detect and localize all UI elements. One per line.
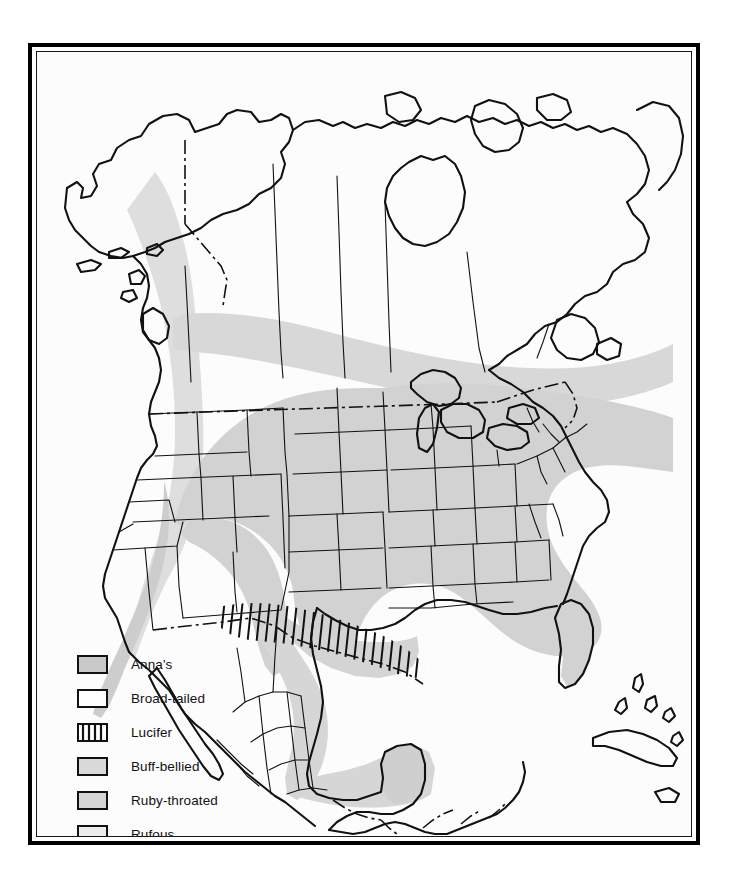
legend-item-ruby-throated[interactable]: Ruby-throated [77, 783, 307, 817]
legend-swatch-ruby-throated [77, 791, 108, 810]
legend-swatch-buff-bellied [77, 757, 108, 776]
map-legend: Anna's Broad-tailed Lucifer [77, 647, 307, 837]
legend-swatch-rufous [77, 825, 108, 838]
hatch-pattern-icon [79, 725, 106, 740]
legend-item-lucifer[interactable]: Lucifer [77, 715, 307, 749]
legend-item-broad-tailed[interactable]: Broad-tailed [77, 681, 307, 715]
legend-label-rufous: Rufous [131, 827, 174, 838]
legend-item-annas[interactable]: Anna's [77, 647, 307, 681]
range-map-figure: Anna's Broad-tailed Lucifer [0, 0, 737, 887]
map-frame-inner: Anna's Broad-tailed Lucifer [36, 51, 692, 837]
legend-label-lucifer: Lucifer [131, 725, 172, 740]
legend-label-broad-tailed: Broad-tailed [131, 691, 205, 706]
legend-swatch-broad-tailed [77, 689, 108, 708]
legend-label-annas: Anna's [131, 657, 172, 672]
legend-swatch-annas [77, 655, 108, 674]
legend-swatch-lucifer [77, 723, 108, 742]
legend-label-ruby-throated: Ruby-throated [131, 793, 218, 808]
legend-label-buff-bellied: Buff-bellied [131, 759, 200, 774]
legend-item-buff-bellied[interactable]: Buff-bellied [77, 749, 307, 783]
legend-item-rufous[interactable]: Rufous [77, 817, 307, 837]
